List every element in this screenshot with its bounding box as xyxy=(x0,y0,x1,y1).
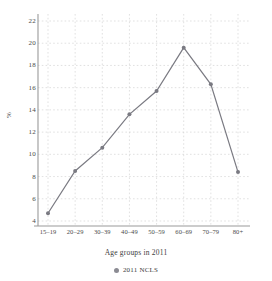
data-point-marker xyxy=(127,112,131,116)
y-axis-tick-label: 20 xyxy=(12,39,36,47)
series-line-path xyxy=(48,48,238,214)
data-point-marker xyxy=(100,146,104,150)
x-axis-tick-label: 30–39 xyxy=(94,228,111,235)
x-axis-title: Age groups in 2011 xyxy=(0,248,272,257)
data-point-marker xyxy=(209,82,213,86)
x-axis-tick-label: 20–29 xyxy=(67,228,84,235)
line-chart: 46810121416182022 % 15–1920–2930–3940–49… xyxy=(0,0,272,281)
legend-marker-icon xyxy=(114,268,119,273)
y-axis-title: % xyxy=(5,112,13,118)
axis-lines xyxy=(34,14,250,226)
y-axis-tick-label: 22 xyxy=(12,17,36,25)
chart-legend: 2011 NCLS xyxy=(0,266,272,274)
y-axis-tick-label: 18 xyxy=(12,61,36,69)
legend-label: 2011 NCLS xyxy=(123,266,158,274)
x-axis-tick-label: 80+ xyxy=(233,228,243,235)
y-axis-tick-label: 16 xyxy=(12,84,36,92)
y-axis-tick-label: 6 xyxy=(12,195,36,203)
x-axis-tick-label: 60–69 xyxy=(175,228,192,235)
x-axis-tick-labels: 15–1920–2930–3940–4950–5960–6970–7980+ xyxy=(0,228,272,240)
vertical-gridlines xyxy=(48,14,238,226)
x-axis-tick-label: 15–19 xyxy=(40,228,57,235)
y-axis-tick-label: 14 xyxy=(12,106,36,114)
data-point-marker xyxy=(73,169,77,173)
data-point-marker xyxy=(182,46,186,50)
series-line xyxy=(48,48,238,214)
horizontal-gridlines xyxy=(38,21,250,221)
y-axis-tick-label: 8 xyxy=(12,173,36,181)
y-axis-tick-label: 12 xyxy=(12,128,36,136)
x-axis-tick-label: 70–79 xyxy=(202,228,219,235)
x-axis-tick-label: 40–49 xyxy=(121,228,138,235)
x-axis-tick-label: 50–59 xyxy=(148,228,165,235)
y-axis-tick-label: 10 xyxy=(12,150,36,158)
data-point-marker xyxy=(155,89,159,93)
data-point-marker xyxy=(236,170,240,174)
data-point-marker xyxy=(46,211,50,215)
y-axis-tick-label: 4 xyxy=(12,217,36,225)
